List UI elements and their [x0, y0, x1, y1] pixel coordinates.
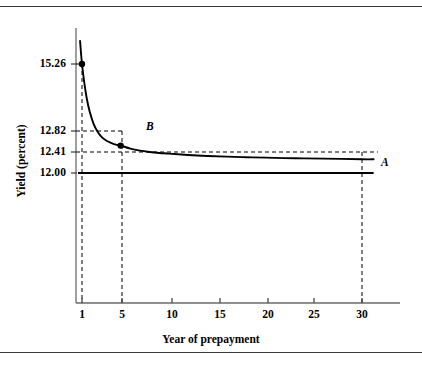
y-tick-label-12-41: 12.41 [4, 145, 66, 157]
x-axis-title: Year of prepayment [0, 333, 422, 345]
annotation-label-a: A [381, 156, 389, 168]
data-point-year-1 [79, 61, 85, 67]
x-tick-label-30: 30 [342, 308, 382, 320]
figure-container: 15.26 12.82 12.41 12.00 1 5 10 15 20 25 … [0, 0, 422, 368]
data-point-year-5 [117, 142, 123, 148]
y-tick-label-12-82: 12.82 [4, 124, 66, 136]
annotation-label-b: B [146, 120, 154, 132]
x-tick-label-25: 25 [294, 308, 334, 320]
x-tick-label-10: 10 [152, 308, 192, 320]
y-tick-label-12-00: 12.00 [4, 166, 66, 178]
x-tick-label-5: 5 [102, 308, 142, 320]
x-tick-label-15: 15 [200, 308, 240, 320]
x-tick-label-1: 1 [62, 308, 102, 320]
x-tick-label-20: 20 [248, 308, 288, 320]
y-tick-label-15-26: 15.26 [4, 57, 66, 69]
yield-curve-line [80, 41, 374, 159]
y-axis-title: Yield (percent) [15, 91, 27, 231]
x-axis-ticks [82, 298, 362, 303]
